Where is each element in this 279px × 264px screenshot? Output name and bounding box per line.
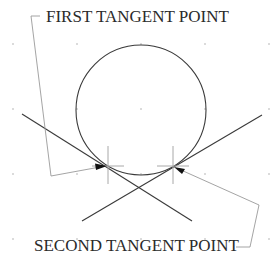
first-leader-line — [31, 16, 100, 176]
first-tangent-label: FIRST TANGENT POINT — [46, 7, 229, 26]
second-leader-arrow-icon — [174, 167, 185, 174]
second-tangent-label: SECOND TANGENT POINT — [34, 236, 239, 255]
tangent-line-1 — [22, 114, 192, 221]
second-tangent-crosshair-icon — [157, 146, 189, 184]
tangent-diagram: FIRST TANGENT POINT SECOND TANGENT POINT — [0, 0, 279, 264]
snap-grid — [12, 43, 270, 240]
tangent-line-2 — [82, 115, 262, 221]
